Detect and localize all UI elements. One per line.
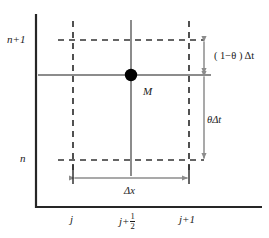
stencil-point-label: M <box>143 86 152 97</box>
space-axis-label-center-fraction: 1 2 <box>130 212 135 230</box>
space-axis-label-right: j+1 <box>179 214 195 225</box>
time-axis-label-upper: n+1 <box>7 34 25 45</box>
space-step-label: Δx <box>124 186 135 197</box>
stencil-drawing <box>0 0 269 238</box>
stencil-crosshair <box>38 20 211 176</box>
lower-time-step-label: θΔt <box>207 115 221 126</box>
space-axis-label-center-base: j+ <box>119 215 129 227</box>
space-axis-label-center: j+ 1 2 <box>119 212 136 230</box>
finite-difference-stencil-figure: n+1 n j j+ 1 2 j+1 M ( 1−θ ) Δt θΔt Δx <box>0 0 269 238</box>
stencil-point-marker <box>125 69 137 81</box>
axes <box>35 14 262 208</box>
space-axis-label-left: j <box>70 214 73 225</box>
time-axis-label-lower: n <box>20 153 26 164</box>
upper-time-step-label: ( 1−θ ) Δt <box>214 51 254 62</box>
fraction-denominator: 2 <box>130 222 135 231</box>
